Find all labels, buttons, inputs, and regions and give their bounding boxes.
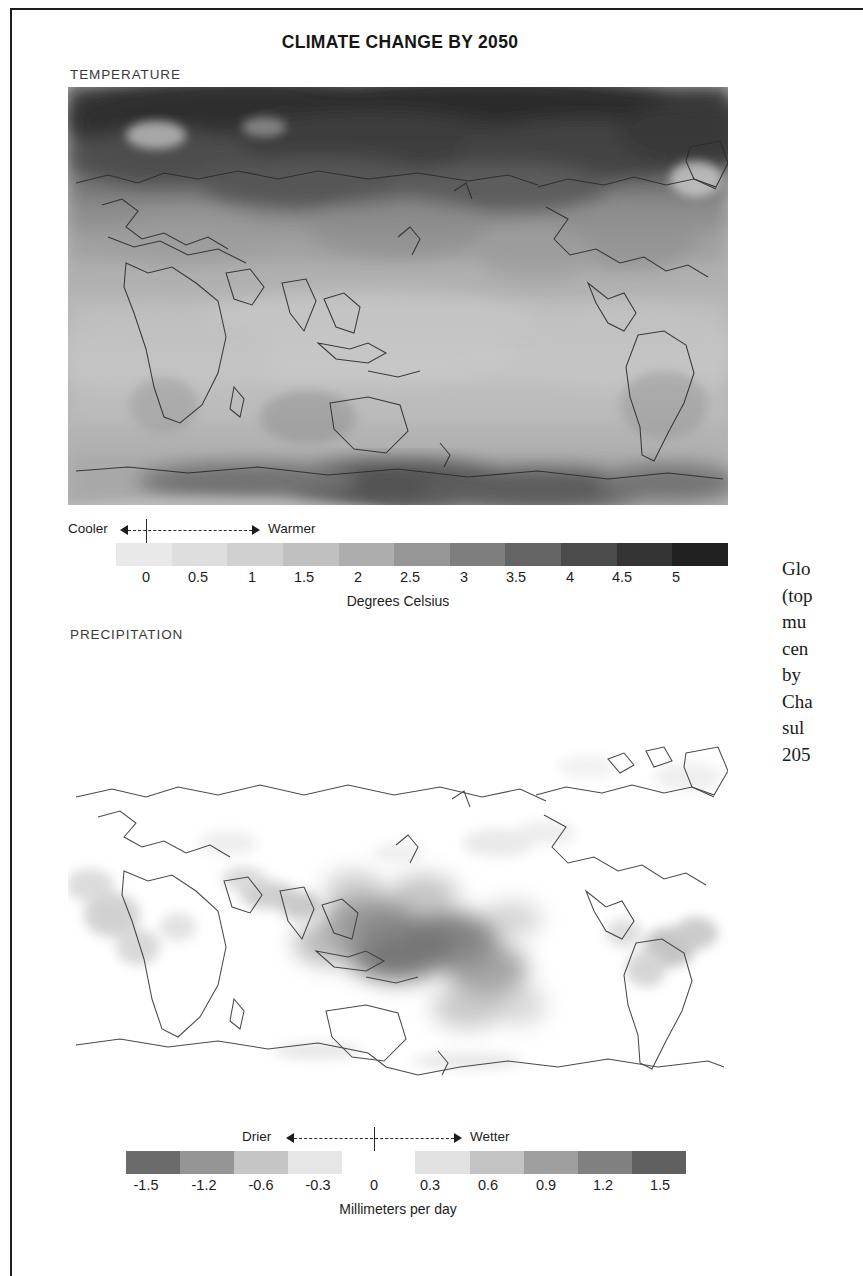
temperature-tick: 2 [354, 569, 362, 585]
temperature-swatch [172, 543, 228, 566]
precipitation-direction-row: Drier Wetter [68, 1127, 728, 1151]
precipitation-swatch [470, 1151, 524, 1174]
precipitation-tick: 1.5 [650, 1177, 670, 1193]
temperature-tick: 3.5 [506, 569, 526, 585]
caption-line: by [782, 662, 863, 689]
temperature-panel-label: TEMPERATURE [70, 67, 732, 82]
temperature-right-arrow-icon [252, 525, 260, 535]
precipitation-map-canvas [68, 647, 728, 1117]
caption-line: cen [782, 636, 863, 663]
temperature-swatch [339, 543, 395, 566]
precipitation-swatch [524, 1151, 578, 1174]
precipitation-tick: -1.5 [134, 1177, 159, 1193]
temperature-tick: 3 [460, 569, 468, 585]
page-border-left [10, 8, 12, 1276]
precipitation-left-arrow-icon [286, 1133, 294, 1143]
precipitation-wetter-label: Wetter [470, 1129, 510, 1144]
temperature-swatch [505, 543, 561, 566]
precipitation-zero-gap [342, 1151, 415, 1174]
temperature-tick: 0 [142, 569, 150, 585]
precipitation-units-label: Millimeters per day [68, 1201, 728, 1217]
temperature-swatch [450, 543, 506, 566]
precipitation-tick-row: -1.5 -1.2 -0.6 -0.3 0 0.3 0.6 0.9 1.2 1.… [68, 1177, 728, 1203]
precipitation-swatch [578, 1151, 632, 1174]
precipitation-colorbar [126, 1151, 686, 1174]
temperature-map [68, 87, 728, 505]
precipitation-swatch [180, 1151, 234, 1174]
caption-line: (top [782, 583, 863, 610]
temperature-swatch [617, 543, 673, 566]
temperature-map-canvas [68, 87, 728, 505]
climate-figure: CLIMATE CHANGE BY 2050 TEMPERATURE [68, 32, 732, 1217]
precipitation-tick: -0.3 [306, 1177, 331, 1193]
temperature-tick: 1 [248, 569, 256, 585]
temperature-units-label: Degrees Celsius [68, 593, 728, 609]
caption-line: sul [782, 715, 863, 742]
precipitation-panel-label: PRECIPITATION [70, 627, 732, 642]
precipitation-swatch [415, 1151, 469, 1174]
precipitation-swatch [632, 1151, 686, 1174]
caption-line: mu [782, 609, 863, 636]
temperature-tick: 4.5 [612, 569, 632, 585]
temperature-colorbar [116, 543, 728, 566]
caption-line: Cha [782, 689, 863, 716]
temperature-left-arrow-icon [120, 525, 128, 535]
precipitation-right-arrow-icon [454, 1133, 462, 1143]
precipitation-tick: 0.6 [478, 1177, 498, 1193]
temperature-swatch [672, 543, 728, 566]
precipitation-drier-label: Drier [242, 1129, 271, 1144]
temperature-tick: 1.5 [294, 569, 314, 585]
temperature-cooler-label: Cooler [68, 521, 108, 536]
figure-title: CLIMATE CHANGE BY 2050 [68, 32, 732, 53]
precipitation-tick: 0 [370, 1177, 378, 1193]
temperature-warmer-label: Warmer [268, 521, 316, 536]
caption-line: 205 [782, 742, 863, 769]
temperature-swatch [227, 543, 283, 566]
precipitation-tick: 0.3 [420, 1177, 440, 1193]
figure-page: CLIMATE CHANGE BY 2050 TEMPERATURE [0, 0, 863, 1276]
precipitation-swatch [126, 1151, 180, 1174]
temperature-tick-row: 0 0.5 1 1.5 2 2.5 3 3.5 4 4.5 5 [68, 569, 728, 595]
precipitation-tick: -0.6 [249, 1177, 274, 1193]
temperature-swatch [116, 543, 172, 566]
temperature-swatch [561, 543, 617, 566]
precipitation-tick: -1.2 [192, 1177, 217, 1193]
temperature-tick: 4 [566, 569, 574, 585]
temperature-legend: Cooler Warmer 0 [68, 519, 728, 609]
figure-caption: Glo (top mu cen by Cha sul 205 [782, 556, 863, 768]
temperature-tick: 0.5 [188, 569, 208, 585]
precipitation-swatch [288, 1151, 342, 1174]
precipitation-tick: 1.2 [593, 1177, 613, 1193]
temperature-direction-row: Cooler Warmer [68, 519, 728, 543]
precipitation-legend: Drier Wetter -1.5 -1 [68, 1127, 728, 1217]
precipitation-map [68, 647, 728, 1117]
precipitation-swatch [234, 1151, 288, 1174]
precipitation-tick: 0.9 [536, 1177, 556, 1193]
temperature-tick: 2.5 [400, 569, 420, 585]
temperature-swatch [394, 543, 450, 566]
page-border-top [10, 8, 863, 10]
caption-line: Glo [782, 556, 863, 583]
temperature-tick: 5 [672, 569, 680, 585]
temperature-swatch [283, 543, 339, 566]
